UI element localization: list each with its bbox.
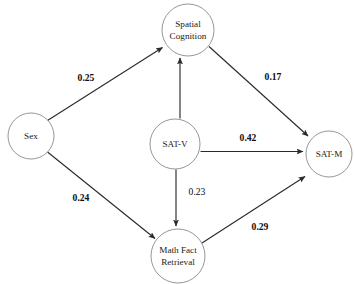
node-math-fact-retrieval-label-line2: Retrieval <box>161 257 195 267</box>
node-sex[interactable]: Sex <box>8 113 54 159</box>
edge-label-sat-v-to-math-fact-retrieval: 0.23 <box>189 186 206 197</box>
path-diagram-canvas: Spatial Cognition Sex SAT-V SAT-M Ma <box>0 0 354 284</box>
edge-label-sex-to-spatial-cognition: 0.25 <box>78 72 95 83</box>
node-sex-label: Sex <box>24 131 38 141</box>
edge-label-spatial-cognition-to-sat-m: 0.17 <box>265 71 282 82</box>
node-sat-m-label: SAT-M <box>316 149 343 159</box>
node-math-fact-retrieval[interactable]: Math Fact Retrieval <box>151 229 205 283</box>
edge-spatial-cognition-to-sat-m <box>209 47 308 137</box>
edge-sex-to-math-fact-retrieval <box>48 152 156 239</box>
edge-label-sex-to-math-fact-retrieval: 0.24 <box>73 192 90 203</box>
edge-sex-to-spatial-cognition <box>48 48 163 121</box>
edge-label-math-fact-retrieval-to-sat-m: 0.29 <box>252 221 269 232</box>
node-math-fact-retrieval-circle[interactable] <box>151 229 205 283</box>
node-sat-v[interactable]: SAT-V <box>150 119 200 169</box>
node-sat-v-label: SAT-V <box>162 139 188 149</box>
node-spatial-cognition[interactable]: Spatial Cognition <box>162 4 214 56</box>
edge-label-sat-v-to-sat-m: 0.42 <box>240 132 257 143</box>
node-sat-m[interactable]: SAT-M <box>306 131 352 177</box>
nodes-group: Spatial Cognition Sex SAT-V SAT-M Ma <box>8 4 352 283</box>
edge-math-fact-retrieval-to-sat-m <box>202 177 305 244</box>
node-math-fact-retrieval-label-line1: Math Fact <box>159 245 197 255</box>
node-spatial-cognition-label-line1: Spatial <box>175 19 201 29</box>
node-spatial-cognition-circle[interactable] <box>162 4 214 56</box>
path-diagram-svg: Spatial Cognition Sex SAT-V SAT-M Ma <box>0 0 354 284</box>
node-spatial-cognition-label-line2: Cognition <box>170 31 207 41</box>
